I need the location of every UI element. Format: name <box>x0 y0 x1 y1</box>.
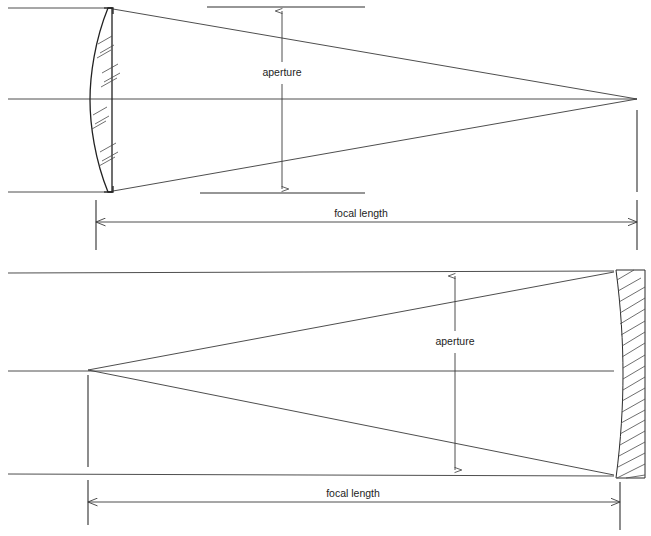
focal-length-label-lens: focal length <box>334 207 388 219</box>
aperture-boundary-top-mirror <box>8 271 614 273</box>
mirror-hatching <box>617 270 645 478</box>
mirror-diagram-group: aperture focal length <box>8 270 645 530</box>
lens-diagram-group: aperture focal length <box>8 7 637 250</box>
diagram-canvas: aperture focal length <box>0 0 651 536</box>
lens-glass-hatching-lower <box>92 107 118 166</box>
plano-convex-lens-body <box>90 8 112 192</box>
converging-ray-bottom <box>113 99 637 191</box>
aperture-label-lens: aperture <box>262 66 301 78</box>
aperture-label-mirror: aperture <box>435 335 474 347</box>
ray-focus-to-mirror-top <box>88 272 614 370</box>
focal-length-label-mirror: focal length <box>326 487 380 499</box>
converging-ray-top <box>113 9 637 99</box>
optical-diagram-figure: aperture focal length <box>0 0 651 536</box>
ray-focus-to-mirror-bottom <box>88 370 614 475</box>
aperture-boundary-bottom-mirror <box>8 474 614 476</box>
lens-glass-hatching-upper <box>97 36 120 87</box>
